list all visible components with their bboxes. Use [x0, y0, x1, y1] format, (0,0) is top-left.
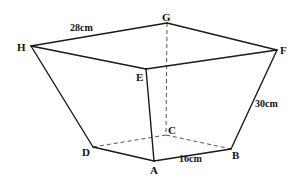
vertex-labels: A B C D E F G H	[17, 11, 287, 176]
visible-edges	[31, 23, 277, 161]
vertex-label-e: E	[136, 71, 143, 83]
edge-gc	[166, 23, 167, 135]
vertex-label-a: A	[150, 164, 158, 176]
vertex-label-c: C	[168, 124, 176, 136]
frustum-figure: A B C D E F G H 28cm 30cm 16cm	[0, 0, 300, 184]
vertex-label-f: F	[280, 44, 287, 56]
edge-cb	[166, 135, 231, 149]
edge-ea	[146, 69, 154, 161]
vertex-label-d: D	[82, 146, 90, 158]
edge-hd	[31, 46, 93, 147]
dimension-bottom-edge: 16cm	[179, 153, 202, 164]
edge-hg	[31, 23, 167, 46]
dimension-top-edge: 28cm	[70, 22, 93, 33]
vertex-label-h: H	[17, 41, 26, 53]
vertex-label-g: G	[162, 11, 171, 23]
edge-dc	[93, 135, 166, 147]
edge-da	[93, 147, 154, 161]
hidden-edges	[93, 23, 231, 149]
edge-eh	[31, 46, 146, 69]
edge-gf	[167, 23, 277, 50]
dimension-lateral-edge: 30cm	[255, 98, 278, 109]
edge-fe	[146, 50, 277, 69]
vertex-label-b: B	[232, 149, 240, 161]
frustum-diagram: A B C D E F G H 28cm 30cm 16cm	[0, 0, 300, 184]
